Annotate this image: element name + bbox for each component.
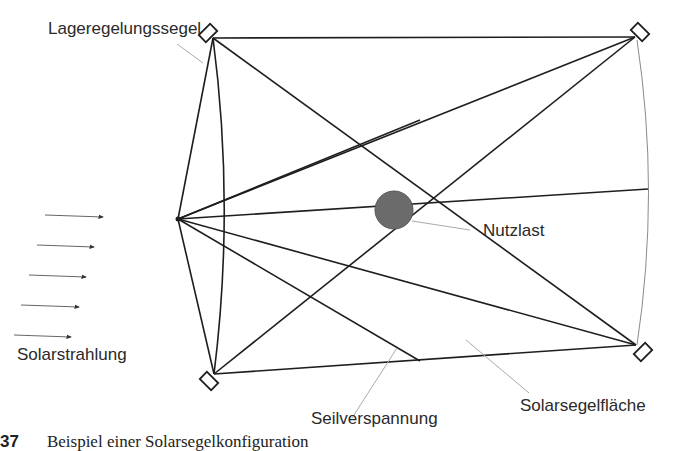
sail-bottom-right [634, 343, 652, 361]
hub-node [176, 217, 181, 222]
leader-attitude-sail [177, 44, 203, 63]
arrow-icon [29, 275, 86, 277]
payload-sphere [375, 191, 413, 229]
label-payload: Nutzlast [483, 222, 544, 239]
label-sail-surface: Solarsegelfläche [520, 397, 646, 414]
label-rigging: Seilverspannung [311, 410, 438, 427]
sail-edge-arc [637, 40, 649, 345]
cable-diagonal-2 [214, 37, 635, 374]
arrow-icon [14, 335, 71, 337]
figure-caption-text: Beispiel einer Solarsegelkonfiguration [47, 432, 309, 451]
radiation-arrows [14, 215, 103, 337]
cable-hub-bottom-right [178, 219, 636, 345]
leader-payload [412, 221, 470, 230]
figure-caption: 37Beispiel einer Solarsegelkonfiguration [0, 433, 308, 450]
label-solar-radiation: Solarstrahlung [17, 346, 127, 363]
figure-number: 37 [0, 432, 19, 451]
leader-sail-surface [466, 340, 529, 393]
label-attitude-sail: Lageregelungssegel [48, 20, 201, 37]
rigging-lines [178, 37, 648, 374]
cable-hub-lower [178, 219, 420, 361]
arrow-icon [21, 305, 79, 307]
cable-hub-bottom-left [178, 219, 214, 374]
arrow-icon [45, 215, 103, 217]
cable-bottom [214, 345, 636, 374]
leader-rigging [352, 348, 397, 418]
cable-hub-top-left [178, 38, 213, 219]
cable-diagonal-1 [213, 38, 636, 345]
arrow-icon [37, 245, 94, 247]
cable-top [213, 37, 635, 38]
cable-left-arc [213, 38, 224, 374]
